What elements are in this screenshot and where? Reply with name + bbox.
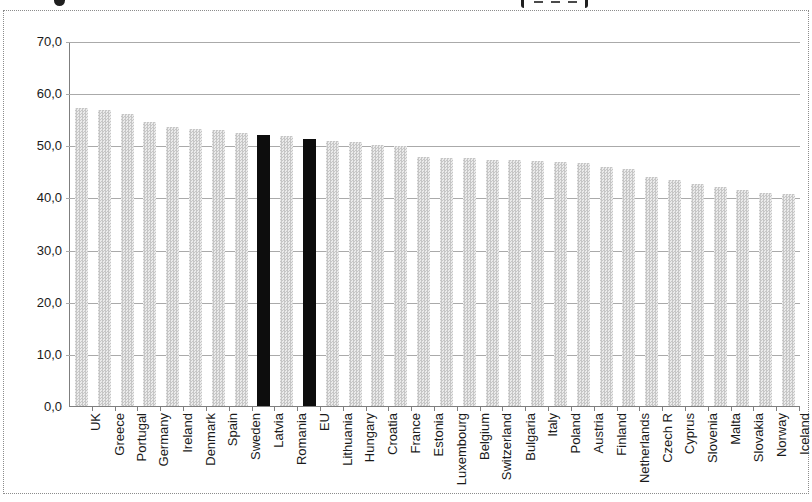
bar-slot (389, 42, 412, 406)
y-axis-tick-label: 0,0 (18, 399, 62, 414)
bar-slot (93, 42, 116, 406)
x-axis-label: Iceland (797, 413, 812, 455)
bar-croatia (371, 145, 384, 406)
bar-slot (663, 42, 686, 406)
x-label-slot: Switzerland (480, 408, 503, 500)
bar-slot (754, 42, 777, 406)
x-label-slot: Ireland (160, 408, 183, 500)
bar-slot (435, 42, 458, 406)
bar-slot (253, 42, 276, 406)
title-text-fragment (568, 1, 577, 3)
bar-estonia (417, 157, 430, 406)
bar-slot (549, 42, 572, 406)
title-open-paren-fragment (521, 0, 524, 8)
bar-slot (161, 42, 184, 406)
bar-austria (577, 163, 590, 406)
bar-poland (554, 162, 567, 406)
x-label-slot: Romania (275, 408, 298, 500)
x-label-slot: Hungary (343, 408, 366, 500)
x-label-slot: Lithuania (320, 408, 343, 500)
x-label-slot: Denmark (183, 408, 206, 500)
bar-belgium (463, 158, 476, 406)
bar-slovenia (691, 184, 704, 406)
y-axis-tick-labels: 70,060,050,040,030,020,010,00,0 (18, 42, 62, 407)
y-axis-tick-label: 30,0 (18, 243, 62, 258)
bar-bulgaria (508, 160, 521, 406)
bar-czech-r (645, 177, 658, 406)
bar-slot (298, 42, 321, 406)
x-label-slot: Finland (594, 408, 617, 500)
x-label-slot: Germany (138, 408, 161, 500)
x-label-slot: Cyprus (663, 408, 686, 500)
x-label-slot: Czech R (640, 408, 663, 500)
bar-slot (732, 42, 755, 406)
bar-slot (777, 42, 800, 406)
bar-finland (600, 167, 613, 406)
bar-romania (280, 136, 293, 406)
bar-slot (344, 42, 367, 406)
bar-slovakia (736, 190, 749, 406)
bar-slot (321, 42, 344, 406)
chart-frame: 70,060,050,040,030,020,010,00,0 UKGreece… (3, 10, 809, 494)
bar-slot (184, 42, 207, 406)
bar-hungary (349, 142, 362, 406)
x-label-slot: Croatia (366, 408, 389, 500)
bar-malta (714, 187, 727, 406)
bar-cyprus (668, 180, 681, 406)
bar-slot (481, 42, 504, 406)
bar-slot (70, 42, 93, 406)
bar-slot (412, 42, 435, 406)
x-label-slot: Latvia (252, 408, 275, 500)
plot-area (69, 42, 800, 407)
bar-slot (572, 42, 595, 406)
bar-greece (98, 110, 111, 406)
bar-denmark (189, 129, 202, 406)
bar-iceland (782, 194, 795, 406)
bar-slot (595, 42, 618, 406)
bar-slot (230, 42, 253, 406)
bar-slot (207, 42, 230, 406)
bar-slot (686, 42, 709, 406)
x-label-slot: Netherlands (617, 408, 640, 500)
bar-italy (531, 161, 544, 406)
bar-latvia (257, 135, 270, 406)
bar-slot (367, 42, 390, 406)
bar-eu (303, 139, 316, 406)
x-label-slot: UK (69, 408, 92, 500)
x-label-slot: Bulgaria (503, 408, 526, 500)
bar-sweden (235, 133, 248, 406)
bar-slot (458, 42, 481, 406)
x-label-slot: Slovenia (686, 408, 709, 500)
y-axis-tick-label: 10,0 (18, 347, 62, 362)
bar-uk (75, 108, 88, 406)
x-label-slot: Slovakia (731, 408, 754, 500)
bar-slot (503, 42, 526, 406)
y-axis-tick-label: 60,0 (18, 86, 62, 101)
y-axis-tick-label: 70,0 (18, 34, 62, 49)
bar-slot (138, 42, 161, 406)
bar-slot (526, 42, 549, 406)
x-label-slot: France (389, 408, 412, 500)
x-label-slot: Norway (754, 408, 777, 500)
bar-portugal (121, 114, 134, 406)
title-close-paren-fragment (585, 0, 588, 8)
title-text-fragment (534, 1, 543, 3)
x-label-slot: Iceland (777, 408, 800, 500)
bar-luxembourg (440, 158, 453, 406)
x-axis-category-labels: UKGreecePortugalGermanyIrelandDenmarkSpa… (69, 408, 800, 500)
bar-norway (759, 193, 772, 406)
y-axis-tick-label: 50,0 (18, 138, 62, 153)
chart-screenshot: 70,060,050,040,030,020,010,00,0 UKGreece… (0, 0, 812, 502)
x-label-slot: Luxembourg (435, 408, 458, 500)
bar-slot (275, 42, 298, 406)
x-label-slot: Sweden (229, 408, 252, 500)
bar-netherlands (622, 169, 635, 406)
y-axis-tick-label: 20,0 (18, 295, 62, 310)
x-label-slot: Spain (206, 408, 229, 500)
bar-slot (640, 42, 663, 406)
bar-france (394, 146, 407, 406)
x-label-slot: Poland (549, 408, 572, 500)
y-axis-tick-label: 40,0 (18, 190, 62, 205)
bar-slot (116, 42, 139, 406)
x-label-slot: Austria (572, 408, 595, 500)
